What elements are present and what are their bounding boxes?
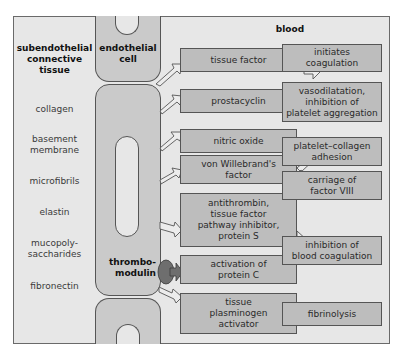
effect-carriage-factor-viii: carriage of factor VIII xyxy=(282,171,382,200)
arrow-icon xyxy=(160,222,182,237)
effect-vasodilatation: vasodilatation, inhibition of platelet a… xyxy=(282,82,382,122)
factor-tissue-plasminogen-activator: tissue plasminogen activator xyxy=(180,293,297,334)
factor-von-willebrand: von Willebrand's factor xyxy=(180,155,297,184)
factor-antithrombin: antithrombin, tissue factor pathway inhi… xyxy=(180,193,297,247)
factor-nitric-oxide: nitric oxide xyxy=(180,129,297,153)
effect-fibrinolysis: fibrinolysis xyxy=(282,302,382,326)
factor-prostacyclin: prostacyclin xyxy=(180,89,297,113)
effect-platelet-collagen-adhesion: platelet–collagen adhesion xyxy=(282,137,382,166)
effect-inhibition-blood-coagulation: inhibition of blood coagulation xyxy=(282,236,382,265)
arrow-icon xyxy=(159,287,182,303)
arrow-icon xyxy=(160,132,182,151)
arrow-icon xyxy=(156,64,182,86)
factor-activation-protein-c: activation of protein C xyxy=(180,255,297,284)
arrow-icon xyxy=(160,168,182,184)
arrow-icon xyxy=(160,95,182,114)
factor-tissue-factor: tissue factor xyxy=(180,48,297,72)
effect-initiates-coagulation: initiates coagulation xyxy=(282,44,382,72)
